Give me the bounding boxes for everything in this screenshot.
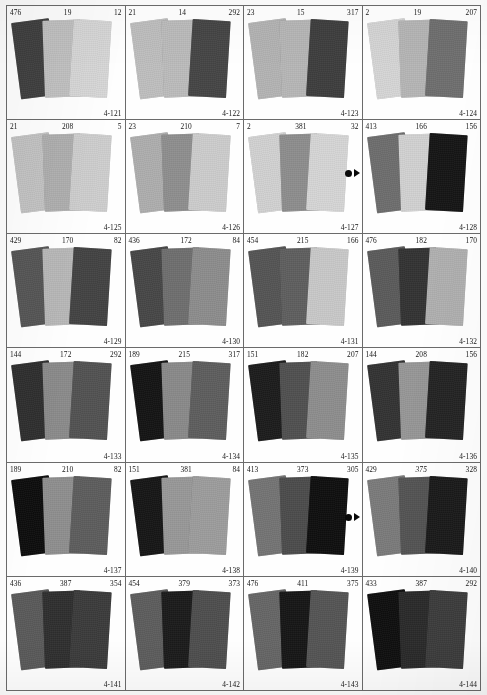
swatch-cell: 151381844-138 [126,463,245,577]
swatch-number-left: 476 [10,8,21,17]
swatch-number-row: 151182207 [244,349,362,360]
swatch-cell: 2381324-127 [244,120,363,234]
swatch-number-right: 292 [110,350,121,359]
swatch-number-right: 5 [118,122,122,131]
swatch-card [188,361,231,440]
swatch-fan [7,131,125,223]
swatch-card [425,476,468,555]
swatch-number-left: 144 [366,350,377,359]
swatch-number-center: 166 [377,122,466,131]
swatch-cell: 2120854-125 [7,120,126,234]
swatch-fan [244,17,362,109]
swatch-number-right: 317 [229,350,240,359]
swatch-number-left: 413 [366,122,377,131]
swatch-code: 4-128 [459,223,477,232]
swatch-number-row: 232107 [126,121,244,132]
swatch-cell: 436172844-130 [126,234,245,348]
swatch-cell: 429170824-129 [7,234,126,348]
swatch-fan [244,588,362,680]
swatch-number-row: 144208156 [363,349,481,360]
swatch-code: 4-144 [459,680,477,689]
swatch-cell: 1441722924-133 [7,348,126,462]
swatch-number-row: 4761912 [7,7,125,18]
swatch-fan [126,359,244,451]
swatch-number-row: 454379373 [126,578,244,589]
swatch-number-row: 476411375 [244,578,362,589]
swatch-fan [363,245,481,337]
swatch-code: 4-133 [104,452,122,461]
swatch-number-center: 210 [136,122,236,131]
swatch-card [69,247,112,326]
swatch-card [69,476,112,555]
swatch-number-left: 413 [247,465,258,474]
swatch-card [188,133,231,212]
swatch-number-center: 210 [21,465,114,474]
swatch-card [306,476,349,555]
swatch-number-right: 317 [347,8,358,17]
swatch-fan [126,245,244,337]
swatch-fan [244,131,362,223]
swatch-card [69,133,112,212]
swatch-number-center: 208 [377,350,466,359]
swatch-card [188,590,231,669]
swatch-number-left: 23 [129,122,137,131]
swatch-grid: 47619124-12121142924-12223153174-1232192… [6,5,481,691]
swatch-number-center: 381 [140,465,233,474]
swatch-number-center: 375 [377,465,466,474]
swatch-number-row: 219207 [363,7,481,18]
swatch-number-center: 172 [140,236,233,245]
swatch-number-right: 32 [351,122,359,131]
swatch-fan [363,474,481,566]
chart-page: 47619124-12121142924-12223153174-1232192… [0,0,487,695]
swatch-code: 4-122 [222,109,240,118]
swatch-number-row: 433387292 [363,578,481,589]
swatch-code: 4-136 [459,452,477,461]
swatch-number-center: 15 [255,8,348,17]
swatch-code: 4-127 [341,223,359,232]
swatch-number-left: 476 [366,236,377,245]
swatch-number-right: 82 [114,236,122,245]
swatch-cell: 4363873544-141 [7,577,126,691]
swatch-number-row: 18921082 [7,464,125,475]
swatch-number-right: 207 [466,8,477,17]
swatch-number-left: 476 [247,579,258,588]
swatch-code: 4-132 [459,337,477,346]
swatch-cell: 4333872924-144 [363,577,482,691]
swatch-number-center: 14 [136,8,229,17]
swatch-fan [7,245,125,337]
swatch-cell: 2192074-124 [363,6,482,120]
swatch-cell: 1892153174-134 [126,348,245,462]
swatch-code: 4-141 [104,680,122,689]
swatch-number-center: 170 [21,236,114,245]
swatch-fan [363,17,481,109]
swatch-cell: 4542151664-131 [244,234,363,348]
swatch-number-left: 21 [129,8,137,17]
swatch-cell: 23153174-123 [244,6,363,120]
swatch-card [425,19,468,98]
swatch-number-center: 182 [258,350,347,359]
swatch-number-right: 7 [236,122,240,131]
swatch-card [306,19,349,98]
swatch-number-right: 354 [110,579,121,588]
swatch-fan [244,245,362,337]
swatch-card [188,19,231,98]
swatch-code: 4-125 [104,223,122,232]
swatch-number-center: 387 [21,579,110,588]
swatch-code: 4-121 [104,109,122,118]
swatch-number-center: 182 [377,236,466,245]
swatch-fan [126,474,244,566]
swatch-code: 4-137 [104,566,122,575]
swatch-number-center: 208 [18,122,118,131]
swatch-number-left: 454 [129,579,140,588]
swatch-code: 4-139 [341,566,359,575]
swatch-code: 4-131 [341,337,359,346]
swatch-number-center: 172 [21,350,110,359]
swatch-number-row: 144172292 [7,349,125,360]
swatch-number-row: 454215166 [244,235,362,246]
swatch-cell: 1442081564-136 [363,348,482,462]
swatch-number-center: 411 [258,579,347,588]
swatch-number-left: 189 [10,465,21,474]
swatch-fan [126,17,244,109]
swatch-number-left: 433 [366,579,377,588]
swatch-number-left: 429 [10,236,21,245]
